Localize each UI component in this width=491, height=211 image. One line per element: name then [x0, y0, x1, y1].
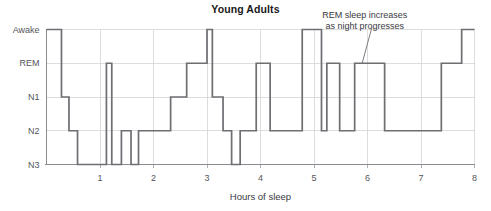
x-tick-2: 2 [151, 173, 156, 183]
y-axis-tick-labels: AwakeREMN1N2N3 [13, 25, 40, 170]
annotation-leader-line [362, 28, 372, 63]
y-tick-awake: Awake [13, 25, 40, 35]
y-tick-n3: N3 [28, 160, 40, 170]
y-tick-rem: REM [20, 58, 40, 68]
chart-plot-area: AwakeREMN1N2N3 12345678 REM sleep increa… [0, 0, 491, 211]
x-tick-8: 8 [472, 173, 477, 183]
x-axis-tick-labels: 12345678 [97, 173, 477, 183]
x-axis-title: Hours of sleep [230, 191, 291, 202]
x-axis-tickmarks [100, 165, 475, 169]
y-tick-n1: N1 [28, 92, 40, 102]
x-tick-7: 7 [418, 173, 423, 183]
x-tick-6: 6 [365, 173, 370, 183]
annotation-line-2: as night progresses [326, 21, 405, 31]
hypnogram-chart: Young Adults AwakeREMN1N2N3 12345678 REM… [0, 0, 491, 211]
x-tick-1: 1 [97, 173, 102, 183]
chart-annotations: REM sleep increasesas night progresses [322, 10, 408, 64]
annotation-line-1: REM sleep increases [322, 10, 408, 20]
x-tick-5: 5 [311, 173, 316, 183]
x-tick-3: 3 [204, 173, 209, 183]
x-tick-4: 4 [258, 173, 263, 183]
y-tick-n2: N2 [28, 126, 40, 136]
